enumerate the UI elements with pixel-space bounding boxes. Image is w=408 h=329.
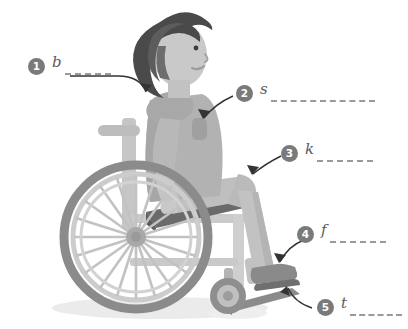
illustration-stage: 1 b 2 s 3 k 4 f 5 t — [0, 0, 408, 329]
callout-4: 4 f — [297, 226, 386, 243]
callout-5: 5 t — [317, 299, 402, 316]
callout-1-letter: b — [52, 55, 62, 70]
callout-4-letter: f — [321, 223, 327, 238]
callout-2-number: 2 — [236, 85, 253, 102]
callout-4-blank[interactable] — [330, 240, 386, 243]
rear-wheel — [64, 165, 208, 309]
callout-5-blank[interactable] — [350, 313, 402, 316]
arrow-3 — [253, 156, 281, 174]
arrow-4 — [280, 240, 304, 262]
callout-5-letter: t — [341, 296, 347, 311]
callout-4-number: 4 — [297, 226, 314, 243]
callout-2-blank[interactable] — [271, 99, 375, 102]
callout-3-blank[interactable] — [317, 159, 373, 162]
callout-2-letter: s — [260, 82, 268, 97]
callout-3-number: 3 — [281, 145, 298, 162]
wheelchair-illustration — [0, 0, 408, 329]
callout-1-blank[interactable] — [65, 72, 111, 75]
caster-wheel — [210, 278, 246, 314]
callout-1: 1 b — [28, 58, 111, 75]
callout-2: 2 s — [236, 85, 375, 102]
callout-1-number: 1 — [28, 58, 45, 75]
callout-5-number: 5 — [317, 299, 334, 316]
shoe — [251, 264, 300, 291]
arrow-1 — [70, 76, 146, 92]
callout-3-letter: k — [305, 142, 314, 157]
callout-3: 3 k — [281, 145, 373, 162]
